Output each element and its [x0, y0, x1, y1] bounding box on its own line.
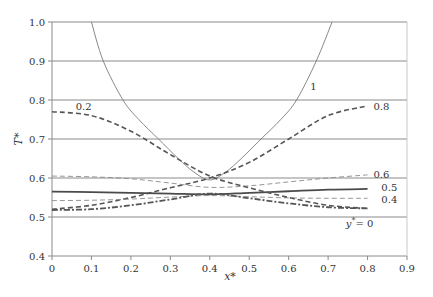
series-line-y0	[52, 194, 368, 210]
curve-label: 0.4	[381, 194, 397, 205]
x-tick-label: 0	[49, 263, 55, 274]
y-tick-label: 0.4	[29, 251, 45, 262]
y-tick-label: 0.9	[29, 56, 45, 67]
series-line-1	[91, 22, 332, 180]
y-tick-label: 0.8	[29, 95, 45, 106]
x-axis-label: x*	[224, 270, 236, 283]
y-axis-ticks: 0.40.50.60.70.80.91.0	[29, 17, 52, 262]
series-line-0-4	[52, 196, 368, 201]
curve-label: 0.5	[381, 182, 397, 193]
y-axis-label: T*	[12, 132, 25, 145]
y-tick-label: 0.6	[29, 173, 45, 184]
x-tick-label: 0.8	[360, 263, 376, 274]
x-tick-label: 0.7	[320, 263, 336, 274]
curve-label: 0.8	[373, 101, 389, 112]
x-tick-label: 0.1	[83, 263, 99, 274]
curve-label: 0.2	[76, 101, 92, 112]
x-tick-label: 0.5	[241, 263, 257, 274]
series-line-0-6	[52, 175, 368, 188]
x-tick-label: 0.6	[281, 263, 297, 274]
x-tick-label: 0.4	[202, 263, 218, 274]
x-tick-label: 0.9	[399, 263, 415, 274]
y-tick-label: 0.5	[29, 212, 45, 223]
x-tick-label: 0.2	[123, 263, 139, 274]
x-tick-label: 0.3	[162, 263, 178, 274]
data-series	[52, 22, 368, 210]
y-tick-label: 0.7	[29, 134, 45, 145]
curve-label: 0.6	[373, 169, 389, 180]
gridlines	[52, 22, 407, 217]
curve-label: y*= 0	[345, 216, 374, 229]
curve-label: 1	[310, 81, 316, 92]
y-tick-label: 1.0	[29, 17, 45, 28]
line-chart: 00.10.20.30.40.50.60.70.80.9 0.40.50.60.…	[0, 0, 433, 297]
chart-container: 00.10.20.30.40.50.60.70.80.9 0.40.50.60.…	[0, 0, 433, 297]
